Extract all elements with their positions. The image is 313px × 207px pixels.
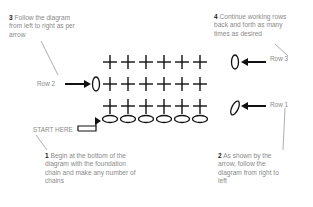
row-2-stitches — [103, 77, 207, 91]
sc-cross-icon — [193, 99, 207, 114]
sc-cross-icon — [193, 55, 207, 69]
sc-cross-icon — [103, 77, 117, 91]
chain-oval-icon — [139, 116, 154, 123]
start-arrow-icon — [78, 117, 101, 131]
row-3-stitches — [103, 55, 207, 69]
sc-cross-icon — [175, 77, 189, 91]
row-1-turning-chain-icon — [229, 100, 241, 116]
sc-cross-icon — [139, 55, 153, 69]
sc-cross-icon — [157, 55, 171, 69]
foundation-chain — [103, 116, 208, 123]
row-3-arrow-icon — [241, 58, 266, 66]
sc-cross-icon — [103, 99, 117, 114]
sc-cross-icon — [157, 77, 171, 91]
leader-note-4 — [275, 44, 288, 56]
sc-cross-icon — [103, 55, 117, 69]
sc-cross-icon — [139, 99, 153, 114]
leader-note-2 — [283, 108, 285, 150]
sc-cross-icon — [139, 77, 153, 91]
chain-oval-icon — [157, 116, 172, 123]
row-3-turning-chain-icon — [232, 55, 239, 69]
sc-cross-icon — [157, 99, 171, 114]
sc-cross-icon — [121, 77, 135, 91]
sc-cross-icon — [121, 55, 135, 69]
row-2-turning-chain-icon — [93, 77, 100, 91]
chain-oval-icon — [103, 116, 118, 123]
leader-lines — [36, 41, 288, 150]
row-2-arrow-icon — [65, 80, 91, 88]
crochet-chart — [0, 0, 313, 207]
sc-cross-icon — [121, 99, 135, 114]
leader-note-1 — [36, 135, 47, 150]
sc-cross-icon — [193, 77, 207, 91]
sc-cross-icon — [175, 55, 189, 69]
chain-oval-icon — [175, 116, 190, 123]
row-1-arrow-icon — [241, 102, 266, 110]
chain-oval-icon — [193, 116, 208, 123]
row-1-stitches — [103, 99, 207, 114]
sc-cross-icon — [175, 99, 189, 114]
chain-oval-icon — [121, 116, 136, 123]
leader-note-3 — [41, 41, 58, 75]
